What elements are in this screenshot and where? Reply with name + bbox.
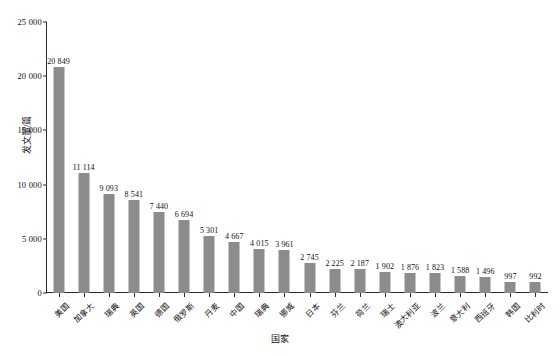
x-axis-tick-mark [510, 293, 511, 297]
x-axis-tick-mark [385, 293, 386, 297]
bar-chart-figure: 05 00010 00015 00020 00025 000 发文量/篇 20 … [0, 0, 560, 356]
bar-value-label: 2 745 [300, 253, 319, 262]
bar-value-label: 9 093 [99, 184, 118, 193]
x-axis-tick-mark [310, 293, 311, 297]
bar-group: 9 093 [96, 22, 121, 293]
x-axis-tick-label: 荷兰 [352, 300, 371, 319]
y-axis-tick-label: 20 000 [17, 71, 42, 81]
x-axis-tick-label: 西班牙 [472, 300, 497, 325]
bar-group: 2 745 [297, 22, 322, 293]
y-axis-tick-label: 25 000 [17, 17, 42, 27]
bar-value-label: 1 496 [476, 267, 495, 276]
x-axis-tick-mark [134, 293, 135, 297]
x-axis-tick-label: 瑞士 [378, 300, 397, 319]
bar-group: 1 588 [448, 22, 473, 293]
bar-group: 992 [523, 22, 548, 293]
bar[interactable] [254, 249, 265, 293]
x-axis-tick-mark [109, 293, 110, 297]
x-axis-tick-mark [59, 293, 60, 297]
bar[interactable] [455, 276, 466, 293]
bar-group: 1 876 [397, 22, 422, 293]
x-axis-tick-mark [84, 293, 85, 297]
x-axis-tick-mark [485, 293, 486, 297]
bar[interactable] [103, 194, 114, 293]
bar-group: 3 961 [272, 22, 297, 293]
x-axis-tick-label: 瑞典 [101, 300, 120, 319]
x-axis-tick-label: 瑞典 [252, 300, 271, 319]
x-axis-tick-mark [184, 293, 185, 297]
x-axis-tick-label: 韩国 [503, 300, 522, 319]
bar[interactable] [279, 250, 290, 293]
x-axis-tick-label: 英国 [127, 300, 146, 319]
bar-value-label: 8 541 [125, 190, 144, 199]
bar-value-label: 3 961 [275, 240, 294, 249]
bar[interactable] [229, 242, 240, 293]
bar-group: 997 [498, 22, 523, 293]
x-axis-tick-mark [360, 293, 361, 297]
y-axis-tick-label: 10 000 [17, 180, 42, 190]
bar[interactable] [304, 263, 315, 293]
bar-group: 2 225 [322, 22, 347, 293]
x-axis-tick-label: 丹麦 [202, 300, 221, 319]
bar[interactable] [379, 272, 390, 293]
bar-value-label: 2 187 [350, 259, 369, 268]
y-axis-tick-label: 5 000 [22, 234, 42, 244]
bar-series: 20 84911 1149 0938 5417 4406 6945 3014 6… [46, 22, 548, 293]
bar[interactable] [128, 200, 139, 293]
bar-group: 4 667 [222, 22, 247, 293]
x-axis-tick-label: 芬兰 [327, 300, 346, 319]
bar[interactable] [505, 282, 516, 293]
bar-group: 4 015 [247, 22, 272, 293]
bar[interactable] [153, 212, 164, 293]
bar-group: 1 902 [372, 22, 397, 293]
x-axis-tick-label: 美国 [51, 300, 70, 319]
bar-value-label: 1 876 [401, 263, 420, 272]
bar-value-label: 992 [529, 272, 541, 281]
bar[interactable] [53, 67, 64, 293]
x-axis-tick-label: 德国 [152, 300, 171, 319]
bar-group: 11 114 [71, 22, 96, 293]
bar-value-label: 7 440 [150, 202, 169, 211]
bar-group: 20 849 [46, 22, 71, 293]
bar[interactable] [78, 173, 89, 293]
bar[interactable] [404, 273, 415, 293]
x-axis-tick-label: 澳大利亚 [391, 300, 421, 330]
x-axis-tick-mark [209, 293, 210, 297]
bar-value-label: 4 667 [225, 232, 244, 241]
bar[interactable] [204, 236, 215, 293]
bar[interactable] [530, 282, 541, 293]
bar-value-label: 4 015 [250, 239, 269, 248]
bar-group: 5 301 [197, 22, 222, 293]
bar[interactable] [480, 277, 491, 293]
x-axis-tick-mark [259, 293, 260, 297]
bar-group: 1 823 [423, 22, 448, 293]
x-axis-tick-label: 波兰 [428, 300, 447, 319]
bar-value-label: 11 114 [73, 163, 95, 172]
x-axis-tick-label: 比利时 [522, 300, 547, 325]
bar-value-label: 2 225 [325, 259, 344, 268]
bar[interactable] [430, 273, 441, 293]
x-axis-tick-label: 意大利 [447, 300, 472, 325]
x-axis-title: 国家 [0, 332, 560, 345]
x-axis-tick-mark [410, 293, 411, 297]
x-axis-tick-mark [535, 293, 536, 297]
bar-group: 1 496 [473, 22, 498, 293]
y-axis-tick-label: 0 [38, 288, 42, 298]
x-axis-tick-label: 日本 [302, 300, 321, 319]
bar-value-label: 1 902 [376, 262, 395, 271]
bar-value-label: 1 823 [426, 263, 445, 272]
x-axis-tick-mark [284, 293, 285, 297]
x-axis-tick-mark [234, 293, 235, 297]
bar-value-label: 5 301 [200, 226, 219, 235]
bar-value-label: 20 849 [47, 57, 70, 66]
x-axis-tick-label: 加拿大 [71, 300, 96, 325]
x-axis-tick-mark [460, 293, 461, 297]
bar-group: 8 541 [121, 22, 146, 293]
x-axis-tick-mark [335, 293, 336, 297]
x-axis-tick-mark [159, 293, 160, 297]
bar-group: 7 440 [146, 22, 171, 293]
bar[interactable] [354, 269, 365, 293]
bar[interactable] [329, 269, 340, 293]
bar[interactable] [179, 220, 190, 293]
x-axis-tick-label: 俄罗斯 [171, 300, 196, 325]
